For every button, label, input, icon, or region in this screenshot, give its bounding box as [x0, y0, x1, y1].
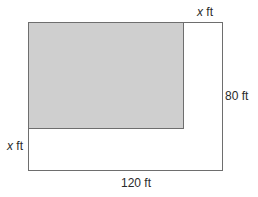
top-strip-width-label: x ft	[197, 6, 213, 18]
bottom-strip-height-label: x ft	[7, 140, 23, 152]
outer-height-label: 80 ft	[225, 90, 248, 102]
shaded-inner-rectangle	[28, 22, 184, 129]
unit-ft: ft	[203, 5, 213, 19]
unit-ft: ft	[13, 139, 23, 153]
outer-width-label: 120 ft	[121, 177, 151, 189]
